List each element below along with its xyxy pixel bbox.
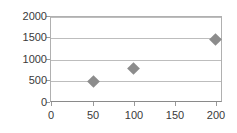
plot-area xyxy=(50,16,222,102)
gridline-1000 xyxy=(51,60,221,61)
x-tick-label-50: 50 xyxy=(73,110,113,121)
y-tick-label-0: 0 xyxy=(3,97,47,108)
x-tick-label-200: 200 xyxy=(196,110,236,121)
y-tick-label-2000: 2000 xyxy=(3,11,47,22)
x-tick-mark-150 xyxy=(175,102,176,106)
y-tick-label-500: 500 xyxy=(3,75,47,86)
x-tick-label-100: 100 xyxy=(114,110,154,121)
y-tick-label-1500: 1500 xyxy=(3,32,47,43)
scatter-chart: 2000 1500 1000 500 0 0 50 100 150 200 xyxy=(0,0,237,133)
x-tick-label-0: 0 xyxy=(31,110,71,121)
x-tick-mark-0 xyxy=(51,102,52,106)
x-tick-mark-200 xyxy=(216,102,217,106)
gridline-2000 xyxy=(51,17,221,18)
gridline-500 xyxy=(51,81,221,82)
x-tick-label-150: 150 xyxy=(155,110,195,121)
gridline-1500 xyxy=(51,38,221,39)
x-tick-mark-100 xyxy=(134,102,135,106)
y-tick-label-1000: 1000 xyxy=(3,54,47,65)
x-tick-mark-50 xyxy=(93,102,94,106)
